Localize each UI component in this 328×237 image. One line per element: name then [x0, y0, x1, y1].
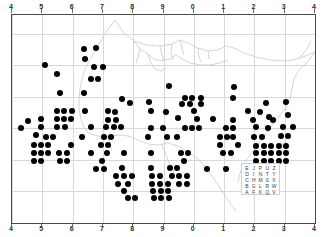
axis-top-tick-mark — [41, 9, 42, 13]
axis-bottom-tick-label: 4 — [309, 225, 319, 233]
distribution-dot — [283, 150, 289, 156]
distribution-dot — [145, 134, 151, 140]
distribution-dot — [54, 71, 60, 77]
distribution-dot — [198, 101, 204, 107]
distribution-dot — [167, 165, 173, 171]
distribution-dot — [265, 125, 271, 131]
distribution-dot — [181, 158, 187, 164]
legend-row: AFKQV — [244, 189, 277, 195]
distribution-dot — [210, 116, 216, 122]
distribution-dot — [18, 125, 24, 131]
distribution-dot — [91, 64, 97, 70]
distribution-dot — [31, 142, 37, 148]
distribution-dot — [125, 181, 131, 187]
distribution-dot — [148, 108, 154, 114]
axis-top-tick-mark — [314, 9, 315, 13]
distribution-dot — [191, 108, 197, 114]
axis-top-tick-mark — [193, 9, 194, 13]
distribution-dot — [81, 46, 87, 52]
axis-top-tick-mark — [11, 9, 12, 13]
distribution-dot — [69, 108, 75, 114]
distribution-dot — [179, 101, 185, 107]
axis-top-tick-mark — [102, 9, 103, 13]
distribution-dot — [93, 45, 99, 51]
distribution-dot — [283, 143, 289, 149]
axis-bottom-tick-label: 7 — [97, 225, 107, 233]
distribution-dot — [217, 142, 223, 148]
distribution-dot — [57, 90, 63, 96]
axis-bottom-tick-label: 2 — [248, 225, 258, 233]
distribution-dot — [105, 142, 111, 148]
distribution-dot — [43, 134, 49, 140]
grid-line-horizontal — [12, 65, 315, 66]
distribution-dot — [132, 195, 138, 201]
distribution-dot — [182, 95, 188, 101]
distribution-dot — [182, 125, 188, 131]
distribution-dot — [285, 133, 291, 139]
distribution-dot — [149, 173, 155, 179]
distribution-dot — [62, 124, 68, 130]
distribution-dot — [125, 195, 131, 201]
distribution-dot — [148, 165, 154, 171]
distribution-dot — [194, 116, 200, 122]
distribution-dot — [157, 173, 163, 179]
distribution-dot — [33, 132, 39, 138]
grid-line-horizontal — [12, 97, 315, 98]
axis-top-tick-mark — [163, 9, 164, 13]
distribution-dot — [283, 158, 289, 164]
legend-letter-cell: A — [244, 189, 250, 195]
distribution-dot — [50, 134, 56, 140]
distribution-dot — [253, 124, 259, 130]
distribution-dot — [100, 64, 106, 70]
distribution-dot — [127, 100, 133, 106]
distribution-dot — [56, 150, 62, 156]
distribution-dot — [151, 195, 157, 201]
distribution-dot — [81, 90, 87, 96]
axis-bottom-tick-label: 3 — [279, 225, 289, 233]
distribution-dot — [121, 173, 127, 179]
distribution-dot — [231, 84, 237, 90]
distribution-dot — [38, 142, 44, 148]
distribution-dot — [217, 134, 223, 140]
distribution-dot — [118, 124, 124, 130]
distribution-dot — [230, 117, 236, 123]
distribution-dot — [99, 158, 105, 164]
distribution-dot — [31, 150, 37, 156]
grid-line-vertical — [315, 15, 316, 223]
distribution-dot — [230, 134, 236, 140]
axis-top-tick-mark — [253, 9, 254, 13]
distribution-dot — [268, 150, 274, 156]
distribution-dot — [165, 181, 171, 187]
distribution-dot — [253, 143, 259, 149]
distribution-dot — [261, 150, 267, 156]
distribution-dot — [104, 150, 110, 156]
distribution-dot — [64, 158, 70, 164]
distribution-dot — [38, 116, 44, 122]
distribution-dot — [257, 109, 263, 115]
distribution-dot — [108, 134, 114, 140]
distribution-dot — [276, 150, 282, 156]
distribution-dot — [169, 173, 175, 179]
axis-bottom-tick-label: 8 — [127, 225, 137, 233]
distribution-dot — [230, 95, 236, 101]
distribution-dot — [38, 150, 44, 156]
distribution-dot — [204, 166, 210, 172]
legend-letter-cell: Q — [264, 189, 270, 195]
distribution-dot — [111, 124, 117, 130]
distribution-map-figure: 45678901234 45678901234 8765432 8765432 — [0, 0, 328, 237]
distribution-dot — [263, 100, 269, 106]
distribution-dot — [31, 158, 37, 164]
distribution-dot — [45, 150, 51, 156]
distribution-dot — [61, 116, 67, 122]
distribution-dot — [113, 173, 119, 179]
distribution-dot — [121, 188, 127, 194]
distribution-dot — [148, 150, 154, 156]
distribution-dot — [115, 181, 121, 187]
distribution-dot — [184, 181, 190, 187]
distribution-dot — [224, 134, 230, 140]
axis-top-tick-mark — [72, 9, 73, 13]
distribution-dot — [185, 150, 191, 156]
distribution-dot — [184, 173, 190, 179]
axis-top-tick-mark — [284, 9, 285, 13]
axis-top-tick-mark — [132, 9, 133, 13]
